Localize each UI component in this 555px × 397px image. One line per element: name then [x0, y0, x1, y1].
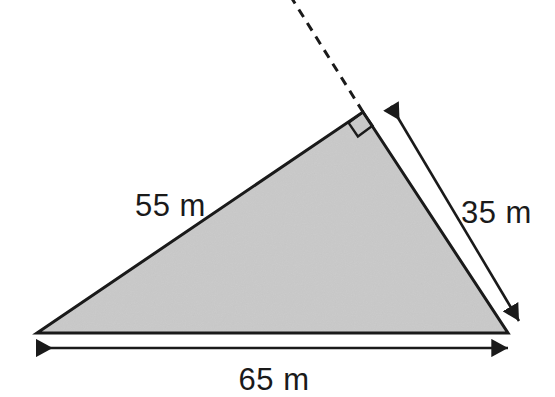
geometry-figure: 55 m 35 m 65 m	[0, 0, 555, 397]
label-base: 65 m	[239, 362, 310, 397]
label-right-side: 35 m	[461, 195, 532, 230]
label-left-side: 55 m	[135, 188, 206, 223]
triangle-diagram-svg: 55 m 35 m 65 m	[0, 0, 555, 397]
